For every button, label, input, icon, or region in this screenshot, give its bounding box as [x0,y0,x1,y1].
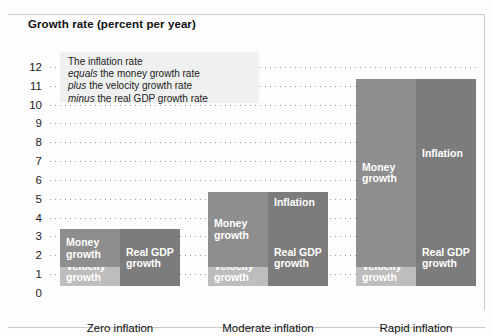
segment-label: Velocity growth [66,267,117,284]
y-tick-label-6: 6 [36,174,42,186]
y-tick-label-12: 12 [29,61,42,73]
y-tick-label-10: 10 [29,99,42,111]
x-axis-label: Moderate inflation [208,322,328,334]
annotation-line-1: The inflation rate [68,56,253,68]
bar-column-uses: InflationReal GDP growth [416,23,476,293]
y-tick-label-1: 1 [36,268,42,280]
y-tick-label-0: 0 [36,287,42,299]
y-tick-label-3: 3 [36,230,42,242]
bar-segment-money-growth[interactable]: Money growth [356,79,416,268]
x-axis-label: Zero inflation [60,322,180,334]
y-tick-label-11: 11 [30,80,42,92]
segment-label: Inflation [274,197,325,209]
frame-right-rule [484,14,485,310]
bar-segment-real-gdp-growth[interactable]: Real GDP growth [268,229,328,286]
y-tick-label-4: 4 [36,212,42,224]
y-tick-label-5: 5 [36,193,42,205]
segment-label: Real GDP growth [274,246,325,269]
y-tick-label-2: 2 [36,249,42,261]
bar-segment-velocity-growth[interactable]: Velocity growth [208,267,268,286]
segment-label: Velocity growth [362,267,413,284]
annotation-line-3: plus the velocity growth rate [68,80,253,92]
annotation-line-4: minus the real GDP growth rate [68,93,253,105]
x-axis-label: Rapid inflation [356,322,476,334]
frame-top-rule [8,14,485,15]
segment-label: Money growth [362,161,413,184]
segment-label: Money growth [66,237,117,260]
y-tick-label-8: 8 [36,136,42,148]
y-tick-label-9: 9 [36,117,42,129]
bar-segment-real-gdp-growth[interactable]: Real GDP growth [416,229,476,286]
chart-figure: Growth rate (percent per year) 121110987… [0,0,493,336]
bar-segment-velocity-growth[interactable]: Velocity growth [356,267,416,286]
bar-segment-money-growth[interactable]: Money growth [208,192,268,267]
segment-label: Velocity growth [214,267,265,284]
bar-segment-real-gdp-growth[interactable]: Real GDP growth [120,229,180,286]
segment-label: Money growth [214,218,265,241]
bar-column-uses: InflationReal GDP growth [268,23,328,293]
bar-column-sources: Money growthVelocity growth [356,23,416,293]
bar-segment-velocity-growth[interactable]: Velocity growth [60,267,120,286]
bar-segment-inflation[interactable]: Inflation [416,79,476,230]
segment-label: Real GDP growth [422,246,473,269]
y-tick-label-7: 7 [36,155,42,167]
segment-label: Inflation [422,148,473,160]
bar-group: Money growthVelocity growthInflationReal… [356,23,476,293]
segment-label: Real GDP growth [126,246,177,269]
annotation-box: The inflation rate equals the money grow… [60,52,259,103]
bar-segment-inflation[interactable]: Inflation [268,192,328,230]
annotation-line-2: equals the money growth rate [68,68,253,80]
bar-segment-money-growth[interactable]: Money growth [60,229,120,267]
